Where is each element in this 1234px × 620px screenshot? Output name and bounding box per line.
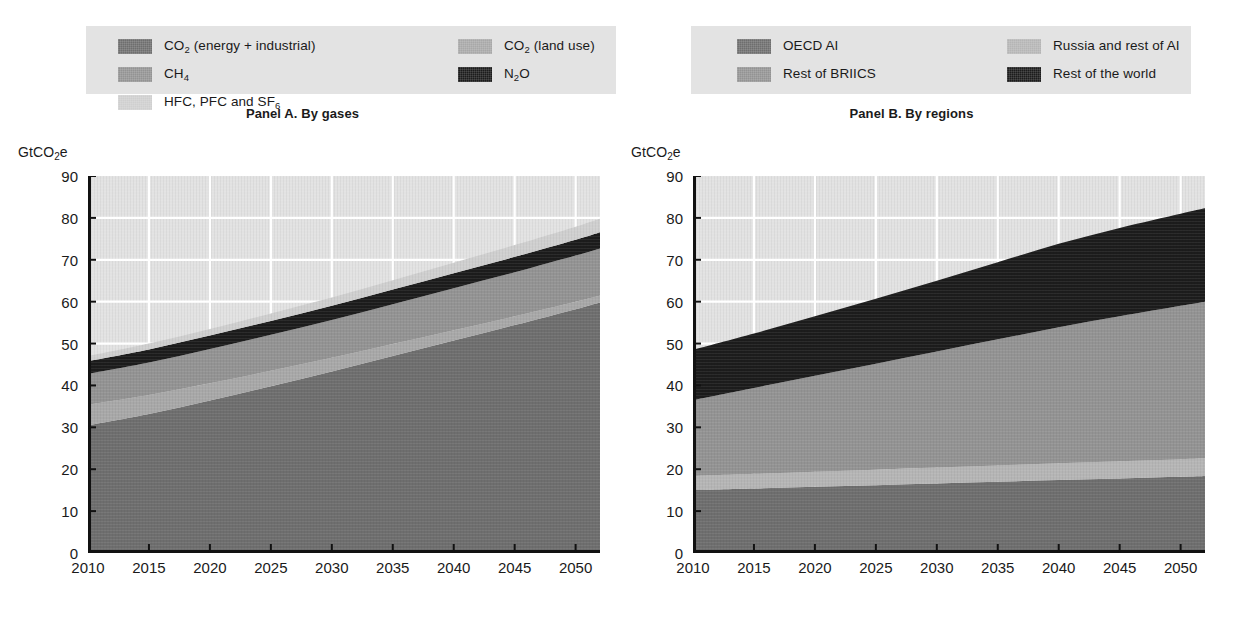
legend-label-rest-of-the-world: Rest of the world xyxy=(1053,67,1156,81)
y-tick-label-20: 20 xyxy=(643,462,683,477)
panel-a-plot xyxy=(88,176,600,553)
panel-b: OECD AIRussia and rest of AIRest of BRII… xyxy=(617,0,1234,620)
legend-swatch-rest-of-the-world-icon xyxy=(1007,67,1041,82)
legend-entry-russia-rest-of-ai[interactable]: Russia and rest of AI xyxy=(1007,39,1234,54)
x-tick-label-2035: 2035 xyxy=(370,560,416,575)
legend-swatch-n2o-icon xyxy=(458,67,492,82)
legend-entry-co2-energy-industrial[interactable]: CO2 (energy + industrial) xyxy=(118,39,458,54)
legend-label-co2-energy-industrial: CO2 (energy + industrial) xyxy=(164,39,315,53)
legend-swatch-russia-rest-of-ai-icon xyxy=(1007,39,1041,54)
legend-entry-rest-of-briics[interactable]: Rest of BRIICS xyxy=(737,67,1007,82)
panel-a: CO2 (energy + industrial)CO2 (land use)C… xyxy=(0,0,617,620)
panel-b-plot xyxy=(693,176,1205,553)
y-tick-label-60: 60 xyxy=(38,294,78,309)
y-tick-label-40: 40 xyxy=(38,378,78,393)
panel-a-title: Panel A. By gases xyxy=(0,106,611,121)
x-tick-label-2040: 2040 xyxy=(1036,560,1082,575)
x-tick-label-2035: 2035 xyxy=(975,560,1021,575)
y-tick-label-70: 70 xyxy=(643,252,683,267)
legend-entry-rest-of-the-world[interactable]: Rest of the world xyxy=(1007,67,1234,82)
legend-label-russia-rest-of-ai: Russia and rest of AI xyxy=(1053,39,1180,53)
legend-swatch-rest-of-briics-icon xyxy=(737,67,771,82)
x-tick-label-2050: 2050 xyxy=(1158,560,1204,575)
x-tick-label-2015: 2015 xyxy=(731,560,777,575)
panel-b-plot-svg xyxy=(693,176,1205,553)
y-tick-label-90: 90 xyxy=(38,169,78,184)
legend-swatch-oecd-ai-icon xyxy=(737,39,771,54)
x-tick-label-2010: 2010 xyxy=(670,560,716,575)
y-tick-label-50: 50 xyxy=(643,336,683,351)
x-tick-label-2050: 2050 xyxy=(553,560,599,575)
x-tick-label-2045: 2045 xyxy=(492,560,538,575)
legend-panel-b: OECD AIRussia and rest of AIRest of BRII… xyxy=(691,26,1191,94)
y-tick-label-60: 60 xyxy=(643,294,683,309)
y-tick-label-40: 40 xyxy=(643,378,683,393)
y-tick-label-50: 50 xyxy=(38,336,78,351)
x-tick-label-2030: 2030 xyxy=(914,560,960,575)
panel-b-title: Panel B. By regions xyxy=(603,106,1220,121)
x-tick-label-2015: 2015 xyxy=(126,560,172,575)
x-tick-label-2010: 2010 xyxy=(65,560,111,575)
x-tick-label-2020: 2020 xyxy=(792,560,838,575)
y-tick-label-10: 10 xyxy=(38,504,78,519)
y-tick-label-10: 10 xyxy=(643,504,683,519)
x-tick-label-2020: 2020 xyxy=(187,560,233,575)
legend-label-ch4: CH4 xyxy=(164,67,189,81)
legend-label-co2-land-use: CO2 (land use) xyxy=(504,39,595,53)
x-tick-label-2040: 2040 xyxy=(431,560,477,575)
y-tick-label-70: 70 xyxy=(38,252,78,267)
legend-swatch-co2-land-use-icon xyxy=(458,39,492,54)
figure-root: CO2 (energy + industrial)CO2 (land use)C… xyxy=(0,0,1234,620)
x-tick-label-2030: 2030 xyxy=(309,560,355,575)
panel-b-unit-label: GtCO2e xyxy=(631,144,681,160)
legend-label-n2o: N2O xyxy=(504,67,530,81)
legend-entry-oecd-ai[interactable]: OECD AI xyxy=(737,39,1007,54)
panel-a-unit-label: GtCO2e xyxy=(18,144,68,160)
y-tick-label-80: 80 xyxy=(38,210,78,225)
legend-swatch-ch4-icon xyxy=(118,67,152,82)
y-tick-label-90: 90 xyxy=(643,169,683,184)
legend-label-rest-of-briics: Rest of BRIICS xyxy=(783,67,876,81)
legend-panel-a: CO2 (energy + industrial)CO2 (land use)C… xyxy=(86,26,616,94)
y-tick-label-30: 30 xyxy=(38,420,78,435)
x-tick-label-2025: 2025 xyxy=(248,560,294,575)
y-tick-label-20: 20 xyxy=(38,462,78,477)
x-tick-label-2045: 2045 xyxy=(1097,560,1143,575)
panel-a-plot-svg xyxy=(88,176,600,553)
x-tick-label-2025: 2025 xyxy=(853,560,899,575)
y-tick-label-30: 30 xyxy=(643,420,683,435)
legend-entry-ch4[interactable]: CH4 xyxy=(118,67,458,82)
legend-swatch-co2-energy-industrial-icon xyxy=(118,39,152,54)
y-tick-label-80: 80 xyxy=(643,210,683,225)
legend-label-oecd-ai: OECD AI xyxy=(783,39,838,53)
